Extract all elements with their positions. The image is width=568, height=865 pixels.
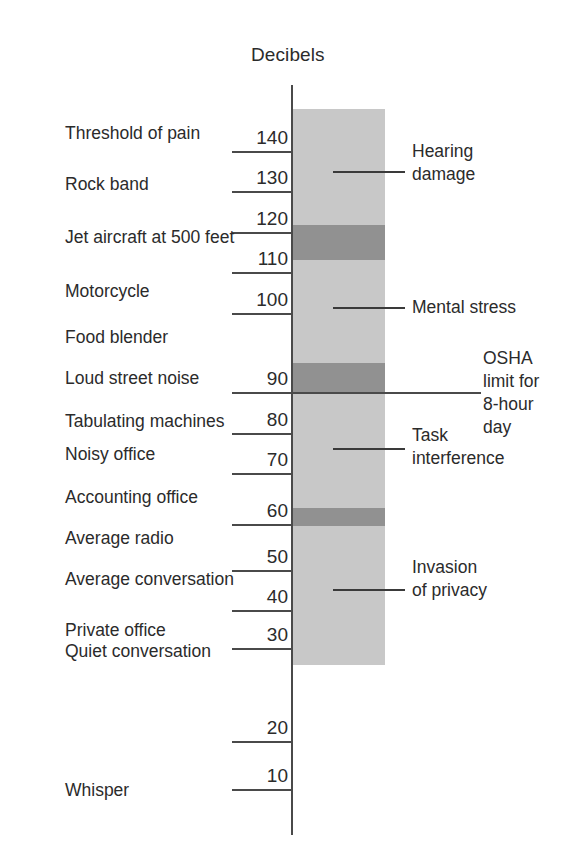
dark-band-120 <box>293 225 385 260</box>
axis-tick-100 <box>232 313 292 315</box>
axis-tick-140 <box>232 151 292 153</box>
source-label-12: Private office <box>65 620 166 641</box>
annotation-leader-line-5 <box>333 589 405 591</box>
axis-tick-40 <box>232 610 292 612</box>
annotation-leader-line-2 <box>333 307 405 309</box>
source-label-11: Average conversation <box>65 569 234 590</box>
source-label-3: Jet aircraft at 500 feet <box>65 227 234 248</box>
source-label-5: Food blender <box>65 327 168 348</box>
axis-tick-label-140: 140 <box>238 127 288 149</box>
axis-tick-label-40: 40 <box>238 586 288 608</box>
axis-tick-120 <box>232 232 292 234</box>
axis-tick-label-110: 110 <box>238 248 288 270</box>
axis-tick-80 <box>232 433 292 435</box>
axis-line <box>291 85 293 835</box>
annotation-label-2: Mental stress <box>412 296 516 319</box>
axis-tick-label-120: 120 <box>238 208 288 230</box>
source-label-10: Average radio <box>65 528 174 549</box>
source-label-6: Loud street noise <box>65 368 199 389</box>
source-label-7: Tabulating machines <box>65 411 225 432</box>
axis-tick-label-80: 80 <box>238 409 288 431</box>
annotation-leader-line-1 <box>333 171 405 173</box>
dark-band-62 <box>293 508 385 526</box>
axis-tick-label-10: 10 <box>238 765 288 787</box>
source-label-1: Threshold of pain <box>65 123 200 144</box>
axis-tick-90 <box>232 392 481 394</box>
axis-tick-label-90: 90 <box>238 368 288 390</box>
axis-title: Decibels <box>251 44 325 66</box>
source-label-14: Whisper <box>65 780 129 801</box>
source-label-13: Quiet conversation <box>65 641 211 662</box>
axis-tick-70 <box>232 473 292 475</box>
axis-tick-label-50: 50 <box>238 546 288 568</box>
axis-tick-label-60: 60 <box>238 500 288 522</box>
dark-band-90 <box>293 363 385 394</box>
axis-tick-label-30: 30 <box>238 624 288 646</box>
source-label-8: Noisy office <box>65 444 155 465</box>
decibel-scale-chart: Decibels 1401301201101009080706050403020… <box>0 0 568 865</box>
annotation-leader-line-4 <box>333 448 405 450</box>
axis-tick-label-20: 20 <box>238 717 288 739</box>
axis-tick-label-70: 70 <box>238 449 288 471</box>
source-label-2: Rock band <box>65 174 149 195</box>
annotation-label-1: Hearing damage <box>412 140 475 186</box>
axis-tick-50 <box>232 570 292 572</box>
noise-level-column <box>293 109 385 665</box>
axis-tick-10 <box>232 789 292 791</box>
axis-tick-60 <box>232 524 292 526</box>
axis-tick-label-100: 100 <box>238 289 288 311</box>
axis-tick-label-130: 130 <box>238 167 288 189</box>
axis-tick-130 <box>232 191 292 193</box>
source-label-9: Accounting office <box>65 487 198 508</box>
axis-tick-20 <box>232 741 292 743</box>
annotation-label-4: Task interference <box>412 424 504 470</box>
axis-tick-30 <box>232 648 292 650</box>
source-label-4: Motorcycle <box>65 281 150 302</box>
axis-tick-110 <box>232 272 292 274</box>
annotation-label-5: Invasion of privacy <box>412 556 487 602</box>
